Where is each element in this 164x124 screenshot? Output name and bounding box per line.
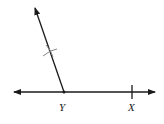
point-y bbox=[63, 91, 66, 94]
geometry-diagram bbox=[0, 0, 164, 124]
label-x: X bbox=[128, 101, 135, 113]
label-y: Y bbox=[59, 101, 65, 113]
